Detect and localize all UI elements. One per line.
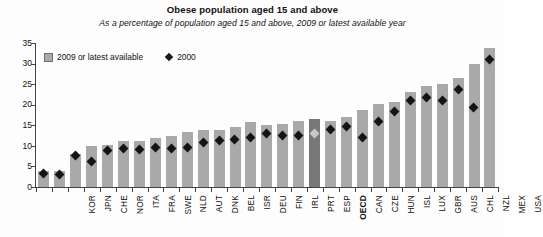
y-axis-tick-mark bbox=[31, 187, 35, 188]
bar-nor bbox=[86, 146, 97, 187]
x-axis-tick-mark bbox=[227, 188, 228, 192]
x-axis-label-nld: NLD bbox=[199, 195, 208, 235]
y-axis-tick-label: 0 bbox=[6, 183, 32, 192]
x-axis-label-cze: CZE bbox=[391, 195, 400, 235]
bar-group bbox=[386, 43, 402, 187]
x-axis-tick-mark bbox=[371, 188, 372, 192]
y-axis-tick-label: 35 bbox=[6, 39, 32, 48]
bar-group bbox=[371, 43, 387, 187]
x-axis-label-aus: AUS bbox=[470, 195, 479, 235]
bar-group bbox=[450, 43, 466, 187]
y-axis-tick-label: 20 bbox=[6, 100, 32, 109]
x-axis-tick-mark bbox=[84, 188, 85, 192]
bar-group bbox=[179, 43, 195, 187]
bar-group bbox=[52, 43, 68, 187]
x-axis-label-isr: ISR bbox=[263, 195, 272, 235]
bar-group bbox=[100, 43, 116, 187]
x-axis-label-ita: ITA bbox=[152, 195, 161, 235]
bar-usa bbox=[484, 48, 495, 187]
y-axis-tick-label: 30 bbox=[6, 59, 32, 68]
y-axis-tick-mark bbox=[31, 146, 35, 147]
bar-group bbox=[163, 43, 179, 187]
x-axis-tick-mark bbox=[386, 188, 387, 192]
bar-group bbox=[482, 43, 498, 187]
x-axis-tick-mark bbox=[466, 188, 467, 192]
x-axis-label-nor: NOR bbox=[136, 195, 145, 235]
y-axis-tick-label: 25 bbox=[6, 80, 32, 89]
x-axis-tick-mark bbox=[243, 188, 244, 192]
x-axis-tick-mark bbox=[307, 188, 308, 192]
chart-subtitle: As a percentage of population aged 15 an… bbox=[0, 18, 505, 28]
x-axis-tick-mark bbox=[52, 188, 53, 192]
x-axis-tick-mark bbox=[116, 188, 117, 192]
x-axis-tick-mark bbox=[275, 188, 276, 192]
bar-group bbox=[323, 43, 339, 187]
y-axis-tick-mark bbox=[31, 166, 35, 167]
x-axis-label-hun: HUN bbox=[407, 195, 416, 235]
bar-group bbox=[68, 43, 84, 187]
x-axis-label-prt: PRT bbox=[327, 195, 336, 235]
bar-group bbox=[84, 43, 100, 187]
x-axis-label-lux: LUX bbox=[438, 195, 447, 235]
x-axis-line bbox=[35, 187, 499, 188]
chart-title: Obese population aged 15 and above bbox=[0, 4, 505, 15]
x-axis-label-che: CHE bbox=[120, 195, 129, 235]
x-axis-tick-mark bbox=[355, 188, 356, 192]
x-axis-tick-mark bbox=[450, 188, 451, 192]
x-axis-tick-mark bbox=[179, 188, 180, 192]
x-axis-label-gbr: GBR bbox=[454, 195, 463, 235]
x-axis-label-swe: SWE bbox=[184, 195, 193, 235]
x-axis-label-can: CAN bbox=[375, 195, 384, 235]
bar-dnk bbox=[182, 132, 193, 187]
bar-group bbox=[211, 43, 227, 187]
plot-area bbox=[36, 43, 498, 187]
x-axis-label-aut: AUT bbox=[215, 195, 224, 235]
x-axis-tick-mark bbox=[36, 188, 37, 192]
x-axis-label-bel: BEL bbox=[247, 195, 256, 235]
bar-group bbox=[275, 43, 291, 187]
y-axis-tick-label: 10 bbox=[6, 142, 32, 151]
x-axis-tick-mark bbox=[402, 188, 403, 192]
bar-group bbox=[259, 43, 275, 187]
x-axis-tick-mark bbox=[259, 188, 260, 192]
bar-mex bbox=[469, 64, 480, 187]
y-axis: 05101520253035 bbox=[0, 0, 32, 237]
bar-group bbox=[132, 43, 148, 187]
bar-group bbox=[402, 43, 418, 187]
x-axis-tick-mark bbox=[163, 188, 164, 192]
x-axis-label-dnk: DNK bbox=[231, 195, 240, 235]
y-axis-tick-mark bbox=[31, 64, 35, 65]
bar-group bbox=[227, 43, 243, 187]
x-axis-tick-mark bbox=[211, 188, 212, 192]
bar-hun bbox=[357, 110, 368, 187]
y-axis-tick-mark bbox=[31, 125, 35, 126]
x-axis-tick-mark bbox=[339, 188, 340, 192]
bar-gbr bbox=[405, 92, 416, 187]
bar-group bbox=[36, 43, 52, 187]
bar-group bbox=[291, 43, 307, 187]
bar-group bbox=[339, 43, 355, 187]
bar-group bbox=[307, 43, 323, 187]
bar-group bbox=[148, 43, 164, 187]
x-axis-tick-mark bbox=[148, 188, 149, 192]
x-axis-label-isl: ISL bbox=[423, 195, 432, 235]
x-axis-label-fra: FRA bbox=[168, 195, 177, 235]
x-axis-label-kor: KOR bbox=[88, 195, 97, 235]
x-axis-label-mex: MEX bbox=[518, 195, 527, 235]
x-axis-tick-mark bbox=[195, 188, 196, 192]
x-axis-tick-mark bbox=[100, 188, 101, 192]
x-axis-label-fin: FIN bbox=[295, 195, 304, 235]
bar-group bbox=[243, 43, 259, 187]
bar-group bbox=[466, 43, 482, 187]
x-axis-label-usa: USA bbox=[534, 195, 543, 235]
bar-group bbox=[418, 43, 434, 187]
x-axis-label-esp: ESP bbox=[343, 195, 352, 235]
bar-group bbox=[116, 43, 132, 187]
bar-group bbox=[355, 43, 371, 187]
x-axis-tick-mark bbox=[498, 188, 499, 192]
x-axis-tick-mark bbox=[418, 188, 419, 192]
x-axis-label-deu: DEU bbox=[279, 195, 288, 235]
y-axis-tick-label: 15 bbox=[6, 121, 32, 130]
y-axis-tick-mark bbox=[31, 84, 35, 85]
x-axis-label-nzl: NZL bbox=[502, 195, 511, 235]
